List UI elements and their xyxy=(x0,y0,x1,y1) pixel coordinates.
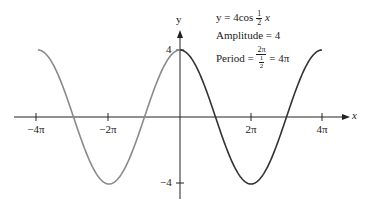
x-tick-label-4pi: 4π xyxy=(316,123,327,135)
equation-prefix: y = 4cos xyxy=(216,11,253,23)
period-result: = 4π xyxy=(269,52,289,64)
equation-fraction: 1 2 xyxy=(256,10,262,27)
period-annotation: Period = 2π 1 2 = 4π xyxy=(216,46,289,70)
cosine-graph xyxy=(0,0,375,209)
y-axis-arrow-icon xyxy=(177,30,183,38)
x-tick-label-neg4pi: −4π xyxy=(27,123,44,135)
period-fraction: 2π 1 2 xyxy=(256,46,266,70)
y-axis-label: y xyxy=(176,14,182,25)
period-prefix: Period = xyxy=(216,52,254,64)
y-tick-label-4: 4 xyxy=(166,44,172,55)
equation-variable: x xyxy=(265,11,270,23)
equation-annotation: y = 4cos 1 2 x xyxy=(216,10,270,27)
x-tick-label-neg2pi: −2π xyxy=(99,123,116,135)
period-inner-fraction: 1 2 xyxy=(259,55,265,70)
amplitude-annotation: Amplitude = 4 xyxy=(216,30,280,41)
x-axis-arrow-icon xyxy=(342,114,350,120)
y-tick-label-neg4: −4 xyxy=(160,177,172,188)
x-tick-label-2pi: 2π xyxy=(245,123,256,135)
x-axis-label: x xyxy=(352,110,357,121)
